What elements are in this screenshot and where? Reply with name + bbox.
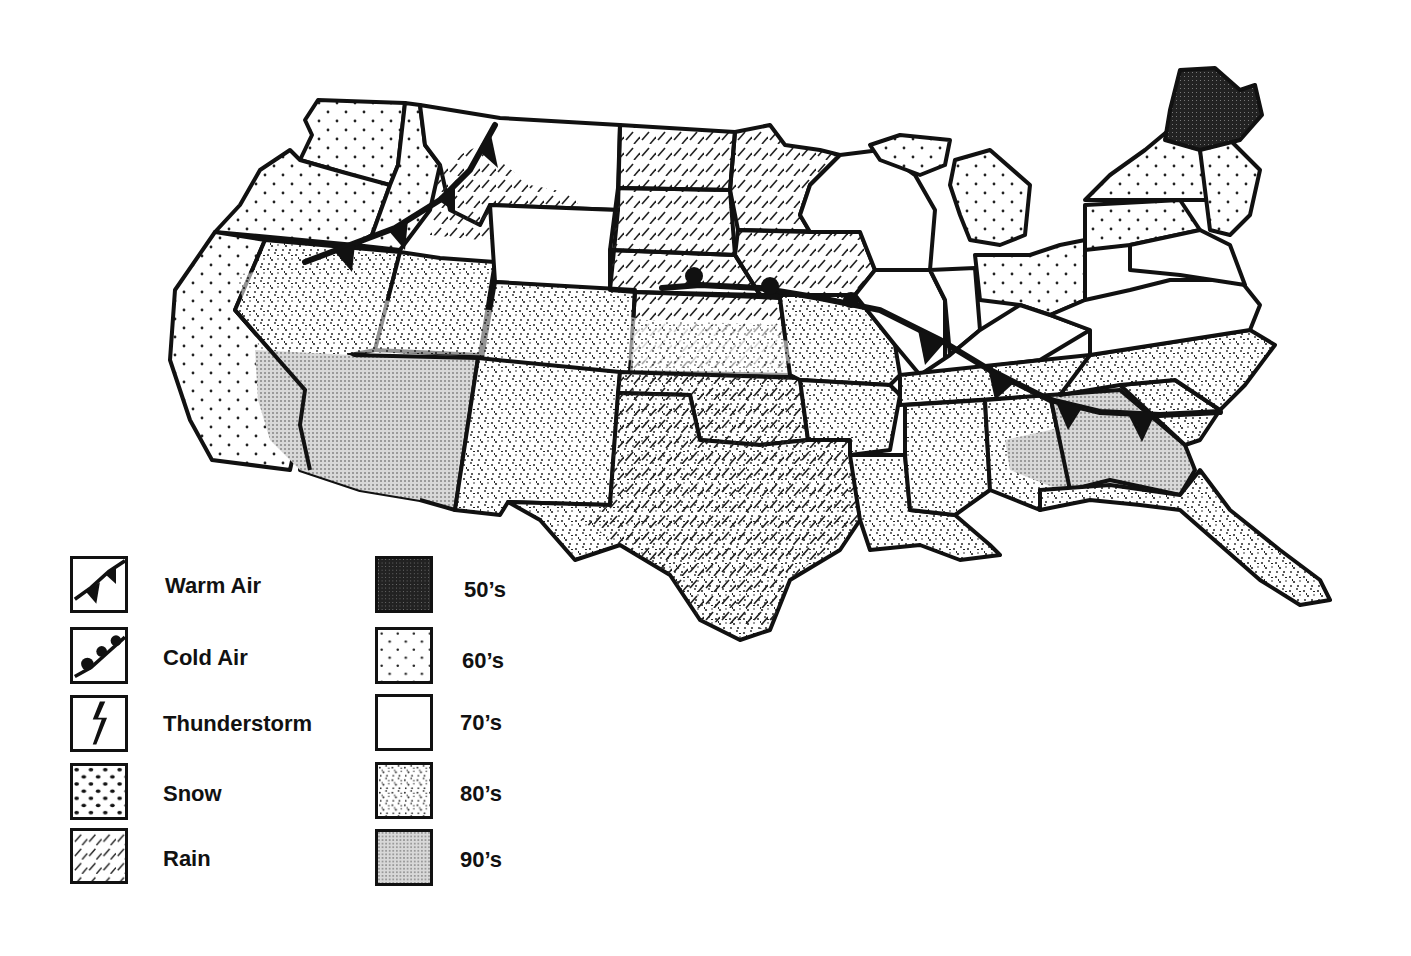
legend-label-90s: 90’s xyxy=(460,847,502,873)
legend-swatch-70s xyxy=(375,694,433,751)
state-north-dakota xyxy=(618,125,735,190)
fine-grey-swatch xyxy=(378,832,430,883)
cold-front-semicircle xyxy=(761,277,779,295)
legend-label-thunderstorm: Thunderstorm xyxy=(163,711,312,737)
legend-label-rain: Rain xyxy=(163,846,211,872)
legend-swatch-60s xyxy=(375,627,433,684)
lightning-bolt-icon xyxy=(73,698,125,749)
legend-label-50s: 50’s xyxy=(464,577,506,603)
dense-dark-swatch xyxy=(378,559,430,610)
stipple-swatch xyxy=(378,765,430,816)
state-ohio xyxy=(975,240,1085,315)
state-new-mexico xyxy=(455,358,620,515)
legend-label-snow: Snow xyxy=(163,781,222,807)
state-florida xyxy=(1040,470,1330,605)
snow-pattern-icon xyxy=(73,766,125,817)
warm-front-icon xyxy=(73,559,125,610)
blank-swatch xyxy=(378,697,430,748)
legend-swatch-warm-air xyxy=(70,556,128,613)
legend-label-warm-air: Warm Air xyxy=(165,573,261,599)
cold-front-semicircle xyxy=(843,292,859,308)
state-maine xyxy=(1165,68,1262,150)
legend-swatch-50s xyxy=(375,556,433,613)
weather-map xyxy=(0,0,1411,956)
state-south-dakota xyxy=(610,188,735,255)
legend-swatch-90s xyxy=(375,829,433,886)
cold-front-semicircle xyxy=(685,267,703,285)
legend-label-cold-air: Cold Air xyxy=(163,645,248,671)
legend-swatch-cold-air xyxy=(70,627,128,684)
sparse-dots-swatch xyxy=(378,630,430,681)
rain-hatch-icon xyxy=(73,831,125,881)
legend-swatch-thunderstorm xyxy=(70,695,128,752)
legend-label-70s: 70’s xyxy=(460,710,502,736)
legend-swatch-snow xyxy=(70,763,128,820)
state-michigan xyxy=(950,150,1030,245)
state-mississippi xyxy=(905,400,990,515)
legend-swatch-80s xyxy=(375,762,433,819)
state-wyoming xyxy=(490,205,618,290)
legend-label-80s: 80’s xyxy=(460,781,502,807)
legend-swatch-rain xyxy=(70,828,128,884)
cold-front-icon xyxy=(73,630,125,681)
legend-label-60s: 60’s xyxy=(462,648,504,674)
